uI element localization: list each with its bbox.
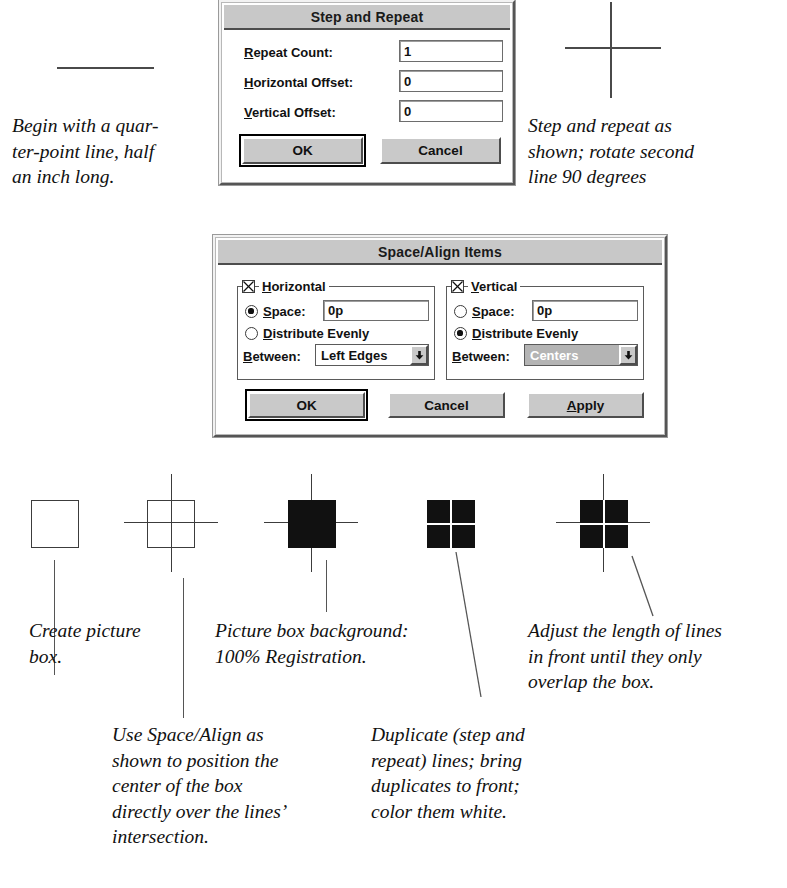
vertical-between-value: Centers [525,345,619,365]
vertical-offset-label: Vertical Offset: [244,105,336,120]
chevron-down-icon[interactable] [410,345,428,365]
vertical-space-label: Space: [472,304,515,319]
dialog-titlebar: Step and Repeat [224,5,510,30]
horizontal-checkbox[interactable] [242,280,255,293]
caption-step-repeat-as-shown: Step and repeat as shown; rotate second … [528,113,778,190]
vertical-distribute-radio[interactable] [454,327,467,340]
horizontal-group-label: Horizontal [259,279,329,294]
caption-picture-box-background: Picture box background: 100% Registratio… [215,618,485,669]
ok-button[interactable]: OK [242,137,363,164]
dialog-title: Space/Align Items [378,244,502,260]
apply-button-label: Apply [567,398,605,413]
vertical-between-dropdown[interactable]: Centers [524,344,638,366]
vertical-between-label: Between: [452,349,510,364]
horizontal-offset-label: Horizontal Offset: [244,75,353,90]
cancel-button[interactable]: Cancel [388,392,505,418]
caption-begin-line: Begin with a quar- ter-point line, half … [12,113,207,190]
horizontal-between-value: Left Edges [316,345,410,365]
caption-adjust-length: Adjust the length of lines in front unti… [528,618,784,695]
vertical-distribute-label: Distribute Evenly [472,326,578,341]
horizontal-distribute-radio[interactable] [245,327,258,340]
dialog-step-and-repeat[interactable]: Step and Repeat Repeat Count: 1 Horizont… [219,0,515,185]
caption-duplicate-lines: Duplicate (step and repeat) lines; bring… [371,722,621,824]
horizontal-space-radio[interactable] [245,305,258,318]
apply-button[interactable]: Apply [527,392,644,418]
cancel-button[interactable]: Cancel [380,137,501,164]
horizontal-offset-input[interactable]: 0 [399,70,503,92]
dialog-space-align-items[interactable]: Space/Align Items Horizontal Space: 0p D… [213,235,667,437]
vertical-group-label: Vertical [468,279,520,294]
dialog-title: Step and Repeat [311,9,424,25]
dialog-titlebar: Space/Align Items [218,240,662,265]
ok-button[interactable]: OK [248,392,365,418]
caption-create-picture-box: Create picture box. [29,618,204,669]
caption-use-space-align: Use Space/Align as shown to position the… [112,722,362,850]
vertical-checkbox[interactable] [451,280,464,293]
repeat-count-label: Repeat Count: [244,45,333,60]
horizontal-between-label: Between: [243,349,301,364]
vertical-space-radio[interactable] [454,305,467,318]
vertical-offset-input[interactable]: 0 [399,100,503,122]
vertical-space-input[interactable]: 0p [532,300,638,321]
chevron-down-icon[interactable] [619,345,637,365]
horizontal-between-dropdown[interactable]: Left Edges [315,344,429,366]
horizontal-space-input[interactable]: 0p [323,300,429,321]
repeat-count-input[interactable]: 1 [399,40,503,62]
quarter-point-line [57,67,154,69]
horizontal-distribute-label: Distribute Evenly [263,326,369,341]
horizontal-space-label: Space: [263,304,306,319]
